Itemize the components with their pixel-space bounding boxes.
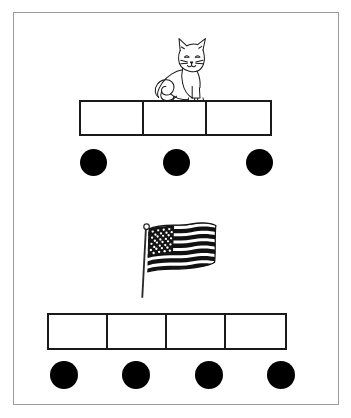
sound-box[interactable]: [108, 315, 167, 348]
counter-dot[interactable]: [50, 361, 78, 389]
sound-boxes-flag: [47, 313, 287, 350]
counter-dots-flag: [50, 361, 295, 389]
sound-box[interactable]: [49, 315, 108, 348]
cat-icon: [137, 29, 215, 107]
counter-dot[interactable]: [122, 361, 150, 389]
sound-box[interactable]: [226, 315, 285, 348]
counter-dots-cat: [80, 149, 273, 176]
counter-dot[interactable]: [246, 149, 273, 176]
worksheet-frame: cat: [13, 12, 339, 405]
picture-cat: cat: [14, 29, 338, 111]
worksheet-page: cat: [0, 0, 351, 418]
sound-box[interactable]: [144, 102, 207, 134]
sound-box[interactable]: [207, 102, 270, 134]
counter-dot[interactable]: [163, 149, 190, 176]
picture-flag: flag: [14, 218, 338, 308]
sound-boxes-cat: [79, 100, 272, 136]
counter-dot[interactable]: [267, 361, 295, 389]
counter-dot[interactable]: [195, 361, 223, 389]
american-flag-icon: [130, 218, 222, 304]
sound-box[interactable]: [81, 102, 144, 134]
counter-dot[interactable]: [80, 149, 107, 176]
sound-box[interactable]: [167, 315, 226, 348]
